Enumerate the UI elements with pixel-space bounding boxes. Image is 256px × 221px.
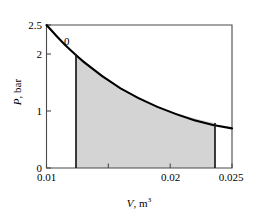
x-axis-unit-exponent: 3 [148, 196, 152, 204]
y-axis-title: P, bar [11, 62, 23, 122]
x-tick-label-0-02: 0.02 [150, 172, 191, 183]
state-0-label: 0 [64, 35, 70, 47]
y-axis-unit: , bar [11, 79, 23, 99]
y-tick-label-2-5: 2.5 [16, 20, 42, 31]
y-axis-symbol: P [11, 98, 23, 105]
y-tick-label-2: 2 [16, 49, 42, 60]
y-axis-ticks [47, 25, 52, 168]
x-tick-label-0-025: 0.025 [209, 172, 253, 183]
x-axis-symbol: V [127, 197, 134, 209]
x-axis-unit: , m [134, 197, 148, 209]
chart-figure: 2.5 2 1 0 0.01 0.02 0.025 0 P, bar V, m3 [0, 0, 256, 221]
x-axis-title: V, m3 [46, 196, 232, 209]
x-tick-label-0-01: 0.01 [26, 172, 67, 183]
